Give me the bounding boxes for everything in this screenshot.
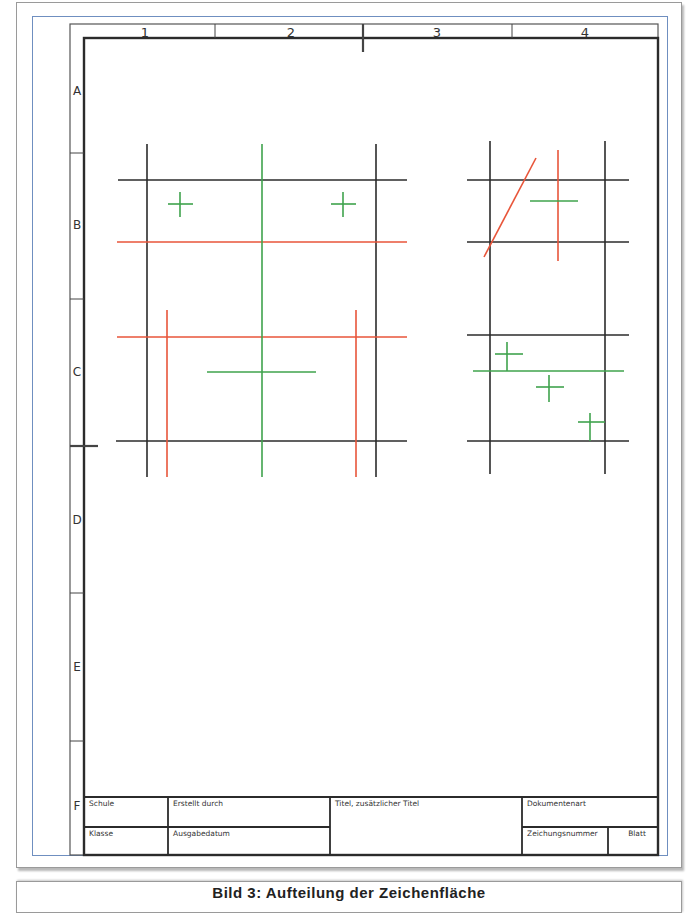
column-label-3: 3: [433, 25, 441, 40]
row-label-c: C: [73, 365, 81, 379]
center-lines: [168, 144, 356, 477]
row-label-a: A: [73, 84, 82, 98]
row-label-f: F: [74, 799, 81, 813]
exercise-right-top: [467, 141, 629, 474]
column-label-4: 4: [581, 25, 589, 40]
exercise-left: [116, 144, 407, 477]
column-label-1: 1: [141, 25, 149, 40]
field-created-by: Erstellt durch: [173, 799, 223, 808]
column-label-2: 2: [287, 25, 295, 40]
center-lines: [473, 342, 624, 441]
field-class: Klasse: [89, 829, 113, 838]
figure-caption: Bild 3: Aufteilung der Zeichenfläche: [17, 884, 681, 901]
field-title: Titel, zusätzlicher Titel: [334, 799, 419, 808]
hidden-lines: [484, 150, 558, 261]
drawing-frame: [84, 38, 658, 855]
row-label-e: E: [73, 660, 81, 674]
field-issue-date: Ausgabedatum: [173, 829, 230, 838]
caption-box: Bild 3: Aufteilung der Zeichenfläche: [16, 881, 682, 913]
row-label-d: D: [72, 513, 81, 527]
field-document-type: Dokumentenart: [527, 799, 586, 808]
field-sheet: Blatt: [628, 829, 646, 838]
title-block-labels: Schule Erstellt durch Titel, zusätzliche…: [89, 799, 646, 838]
outline-lines: [467, 141, 629, 474]
field-school: Schule: [89, 799, 114, 808]
sheet-outer-border: [70, 24, 658, 855]
field-drawing-number: Zeichungsnummer: [527, 829, 599, 838]
row-label-b: B: [73, 218, 81, 232]
